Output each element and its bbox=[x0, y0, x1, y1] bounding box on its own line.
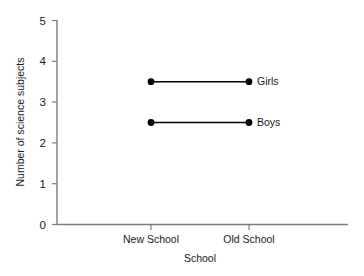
y-tick-label-4: 4 bbox=[40, 55, 47, 67]
series-marker-girls-new-school bbox=[148, 78, 155, 85]
x-tick-label-old-school: Old School bbox=[223, 233, 274, 245]
y-tick-label-0: 0 bbox=[40, 219, 46, 231]
series-label-girls: Girls bbox=[257, 75, 279, 87]
y-tick-label-2: 2 bbox=[40, 137, 46, 149]
series-marker-girls-old-school bbox=[246, 78, 253, 85]
series-marker-boys-old-school bbox=[246, 119, 253, 126]
chart-screen: 0 1 2 3 4 5 New School Old School School… bbox=[0, 0, 364, 276]
series-marker-boys-new-school bbox=[148, 119, 155, 126]
y-tick-label-5: 5 bbox=[40, 15, 46, 27]
x-tick-label-new-school: New School bbox=[123, 233, 179, 245]
x-axis-title: School bbox=[184, 252, 216, 264]
y-tick-label-1: 1 bbox=[40, 178, 46, 190]
slope-chart: 0 1 2 3 4 5 New School Old School School… bbox=[0, 0, 364, 276]
series-label-boys: Boys bbox=[257, 116, 280, 128]
chart-background bbox=[0, 0, 364, 276]
y-tick-label-3: 3 bbox=[40, 96, 46, 108]
y-axis-title: Number of science subjects bbox=[14, 58, 26, 187]
